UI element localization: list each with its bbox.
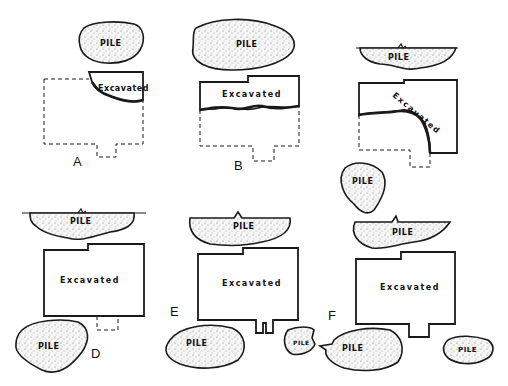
pile-label-d-lower: PILE <box>38 342 59 351</box>
pile-label-d-top: PILE <box>70 217 91 226</box>
panel-d: PILE Excavated PILE D <box>16 209 146 372</box>
pile-label-c-top: PILE <box>388 53 409 62</box>
excavated-region-f <box>356 252 455 337</box>
excavated-label-d: Excavated <box>60 276 120 285</box>
panel-label-e: E <box>170 304 179 319</box>
pile-label-a: PILE <box>100 39 121 48</box>
pile-label-b: PILE <box>236 40 257 49</box>
unexcavated-outline-b <box>200 106 299 161</box>
pile-label-e-right: PILE <box>293 339 310 346</box>
pile-label-c-lower: PILE <box>352 177 373 186</box>
panel-c: PILE Excavated PILE <box>341 44 458 213</box>
excavated-label-e: Excavated <box>222 279 282 288</box>
panel-f: PILE Excavated F PILE PILE <box>320 216 493 370</box>
unexcavated-stub-d <box>97 316 118 330</box>
excavated-label-a: Excavated <box>98 84 149 93</box>
pile-c-lower <box>341 163 385 213</box>
excavated-label-b: Excavated <box>222 90 282 99</box>
pile-label-e-lower: PILE <box>186 339 207 348</box>
excavated-region-e <box>198 248 298 333</box>
pile-label-f-top: PILE <box>392 228 413 237</box>
pile-label-f-lower: PILE <box>342 344 363 353</box>
panel-a: PILE Excavated A <box>44 22 149 169</box>
excavated-region-c <box>359 80 457 153</box>
excavated-label-f: Excavated <box>380 283 440 292</box>
panel-label-d: D <box>91 346 100 361</box>
pile-label-e-top: PILE <box>233 222 254 231</box>
panel-label-b: B <box>234 158 243 173</box>
panel-label-f: F <box>328 308 336 323</box>
diagram-canvas: PILE Excavated A PILE Excavated B PILE E… <box>0 0 508 386</box>
panel-label-a: A <box>73 154 82 169</box>
panel-e: PILE Excavated E PILE PILE <box>166 212 315 368</box>
unexcavated-outline-c <box>359 115 430 167</box>
pile-label-f-right: PILE <box>458 346 477 354</box>
panel-b: PILE Excavated B <box>193 19 299 173</box>
